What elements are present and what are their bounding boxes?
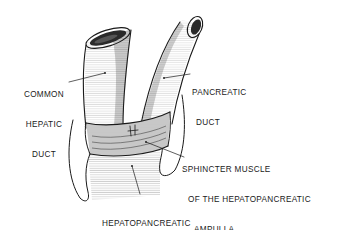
label-pancreatic-duct: PANCREATIC DUCT: [192, 68, 247, 138]
label-hepatopancreatic-ampulla: HEPATOPANCREATIC AMPULLA (DIVERTICULUM D…: [102, 199, 262, 230]
common-hepatic-duct: [83, 23, 132, 128]
label-common-hepatic-duct: COMMON HEPATIC DUCT: [18, 70, 70, 170]
